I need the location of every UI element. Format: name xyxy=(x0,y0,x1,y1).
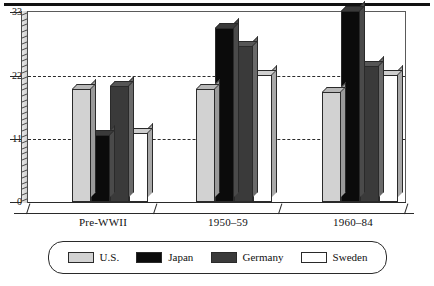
y-minor-tick xyxy=(21,196,28,203)
y-minor-tick xyxy=(21,39,28,47)
bar-side-face xyxy=(215,79,220,197)
y-minor-tick xyxy=(21,120,28,128)
legend-swatch-icon xyxy=(301,252,327,263)
y-minor-tick xyxy=(21,132,28,140)
y-minor-tick xyxy=(21,45,28,53)
bar-side-face xyxy=(341,82,346,197)
bar-front-face xyxy=(196,89,215,202)
legend-label: Japan xyxy=(168,252,193,263)
y-axis-wall xyxy=(21,11,28,203)
bar-us-0 xyxy=(72,89,91,202)
y-minor-tick xyxy=(21,62,28,70)
bar-front-face xyxy=(322,92,341,202)
chart-legend: U.S.JapanGermanySweden xyxy=(48,241,387,274)
bar-side-face xyxy=(129,76,134,197)
y-minor-tick xyxy=(21,97,28,105)
bar-side-face xyxy=(148,123,153,197)
plot-baseline xyxy=(28,202,406,203)
bar-side-face xyxy=(234,18,239,197)
y-minor-tick xyxy=(21,167,28,175)
bar-side-face xyxy=(253,36,258,197)
y-minor-tick xyxy=(21,190,28,198)
y-major-tick-22 xyxy=(10,76,21,77)
bar-side-face xyxy=(272,65,277,197)
legend-label: Sweden xyxy=(333,252,368,263)
legend-item-us[interactable]: U.S. xyxy=(68,252,120,263)
y-minor-tick xyxy=(21,103,28,111)
legend-item-germany[interactable]: Germany xyxy=(211,252,284,263)
y-minor-tick xyxy=(21,68,28,76)
y-minor-tick xyxy=(21,155,28,163)
legend-label: U.S. xyxy=(100,252,120,263)
x-category-label-2: 1960–84 xyxy=(308,216,398,229)
y-minor-tick xyxy=(21,173,28,181)
x-category-label-0: Pre-WWII xyxy=(58,216,148,229)
legend-swatch-icon xyxy=(68,252,94,263)
bar-side-face xyxy=(379,56,384,197)
y-minor-tick xyxy=(21,109,28,117)
y-axis-labels: 33 22 11 0 xyxy=(0,0,22,286)
y-major-tick-11 xyxy=(10,139,21,140)
chart-root: 33 22 11 0 Pre-WWII 1950–59 1960–84 U.S.… xyxy=(0,0,434,286)
legend-swatch-icon xyxy=(136,252,162,263)
legend-item-sweden[interactable]: Sweden xyxy=(301,252,368,263)
y-minor-tick xyxy=(21,126,28,134)
bar-side-face xyxy=(360,1,365,197)
y-minor-tick xyxy=(21,33,28,41)
bar-us-2 xyxy=(322,92,341,202)
legend-label: Germany xyxy=(243,252,284,263)
bar-front-face xyxy=(72,89,91,202)
bar-side-face xyxy=(398,65,403,197)
y-minor-tick xyxy=(21,184,28,192)
y-minor-tick xyxy=(21,11,28,18)
x-axis-line xyxy=(14,213,414,214)
legend-items: U.S.JapanGermanySweden xyxy=(49,242,386,273)
y-minor-tick xyxy=(21,138,28,146)
y-minor-tick xyxy=(21,161,28,169)
x-category-label-1: 1950–59 xyxy=(183,216,273,229)
legend-item-japan[interactable]: Japan xyxy=(136,252,193,263)
legend-swatch-icon xyxy=(211,252,237,263)
y-minor-tick xyxy=(21,91,28,99)
y-major-tick-33 xyxy=(10,12,21,13)
bar-side-face xyxy=(110,125,115,197)
y-minor-tick xyxy=(21,27,28,35)
bar-us-1 xyxy=(196,89,215,202)
y-minor-tick xyxy=(21,74,28,82)
top-divider-rule xyxy=(4,3,430,6)
y-major-tick-0 xyxy=(10,202,21,203)
y-minor-tick xyxy=(21,56,28,64)
bar-side-face xyxy=(91,79,96,197)
